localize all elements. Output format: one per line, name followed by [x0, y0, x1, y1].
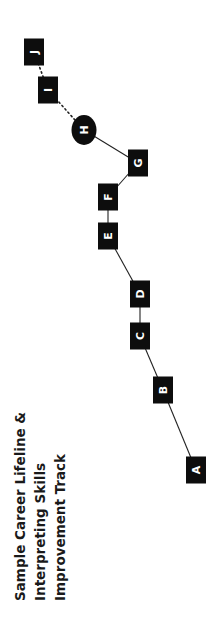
node-h-label: H — [78, 125, 91, 134]
title-line-3: Improvement Track — [54, 454, 68, 601]
node-j: J — [24, 39, 44, 66]
node-b-label: B — [157, 386, 170, 394]
node-f: F — [98, 184, 118, 211]
node-a: A — [186, 457, 206, 484]
node-e-label: E — [102, 232, 115, 240]
node-d: D — [130, 281, 150, 308]
node-j-label: J — [28, 50, 41, 55]
title-line-1: Sample Career Lifeline & — [14, 412, 28, 601]
node-g: G — [128, 150, 148, 177]
node-i: I — [38, 77, 58, 104]
node-f-label: F — [102, 193, 115, 201]
edges-layer — [34, 52, 196, 470]
node-g-label: G — [132, 158, 145, 167]
node-c: C — [130, 323, 150, 350]
node-b: B — [153, 377, 173, 404]
node-a-label: A — [190, 465, 203, 474]
title-line-2: Interpreting Skills — [34, 463, 48, 601]
node-d-label: D — [134, 289, 147, 298]
node-i-label: I — [42, 88, 55, 92]
career-lifeline-diagram: ABCDEFGHIJ Sample Career Lifeline & Inte… — [0, 0, 214, 636]
node-h: H — [72, 115, 97, 145]
node-e: E — [98, 223, 118, 250]
node-c-label: C — [134, 332, 147, 340]
nodes-layer: ABCDEFGHIJ — [24, 39, 206, 484]
